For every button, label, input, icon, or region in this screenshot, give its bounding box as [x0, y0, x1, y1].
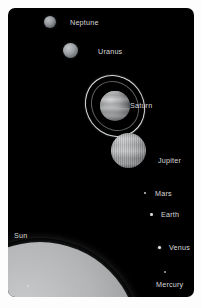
planet-neptune — [44, 16, 56, 28]
label-earth: Earth — [161, 211, 179, 218]
solar-system-figure: Neptune Uranus Saturn Jupiter Mars Earth… — [0, 0, 202, 308]
label-mercury: Mercury — [156, 281, 183, 288]
planet-earth — [150, 213, 153, 216]
label-jupiter: Jupiter — [158, 157, 181, 164]
label-saturn: Saturn — [130, 102, 152, 109]
label-sun: Sun — [14, 232, 27, 239]
planet-jupiter — [111, 133, 146, 168]
sky-panel: Neptune Uranus Saturn Jupiter Mars Earth… — [8, 8, 194, 297]
star-sun — [8, 242, 138, 297]
planet-uranus — [63, 43, 78, 58]
planet-mars — [144, 192, 146, 194]
planet-venus — [158, 246, 161, 249]
label-uranus: Uranus — [98, 48, 122, 55]
label-venus: Venus — [169, 244, 190, 251]
label-neptune: Neptune — [70, 19, 99, 26]
planet-mercury — [164, 271, 166, 273]
label-mars: Mars — [155, 190, 172, 197]
